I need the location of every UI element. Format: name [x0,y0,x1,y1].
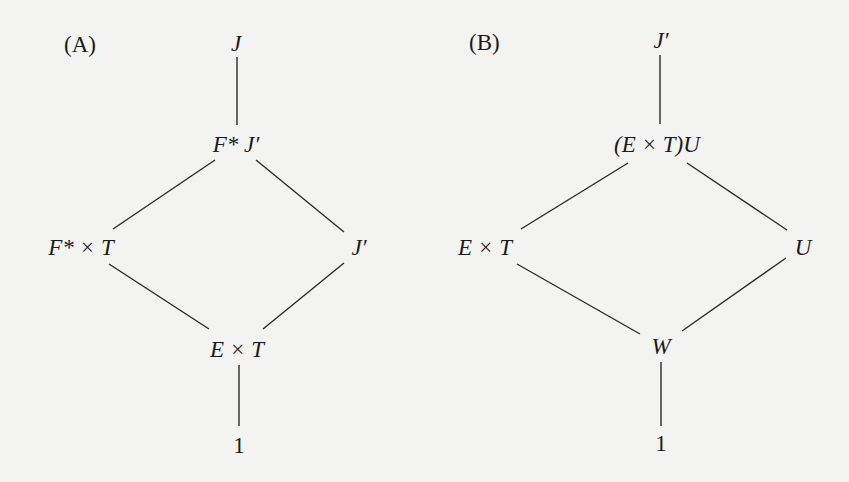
node-a-lower-mid: E × T [210,337,264,363]
node-b-bottom: 1 [655,431,667,457]
node-b-left: E × T [458,235,512,261]
node-b-lower-mid: W [651,334,670,360]
node-a-upper-mid: F* J′ [213,132,260,158]
edge-a-lower-right [263,263,344,329]
node-a-bottom: 1 [233,433,245,459]
edge-a-upper-right [256,160,344,232]
diagram-edges [0,0,849,482]
edge-b-lower-left [517,264,640,334]
node-b-right: U [795,235,812,261]
edge-b-upper-right [687,163,787,230]
node-b-top: J′ [653,28,668,54]
node-b-upper-mid: (E × T)U [614,132,700,158]
node-a-left: F* × T [48,235,113,261]
edge-a-upper-left [113,160,215,229]
edge-a-lower-left [109,264,209,329]
edge-b-lower-right [682,258,786,331]
edge-b-upper-left [521,163,628,229]
panel-label-b: (B) [469,30,500,56]
panel-label-a: (A) [64,32,96,58]
node-a-top: J [231,31,241,57]
node-a-right: J′ [351,235,366,261]
